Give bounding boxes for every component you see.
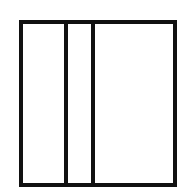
outer-rectangle [21,22,175,185]
partitioned-rectangle-diagram [0,0,185,195]
